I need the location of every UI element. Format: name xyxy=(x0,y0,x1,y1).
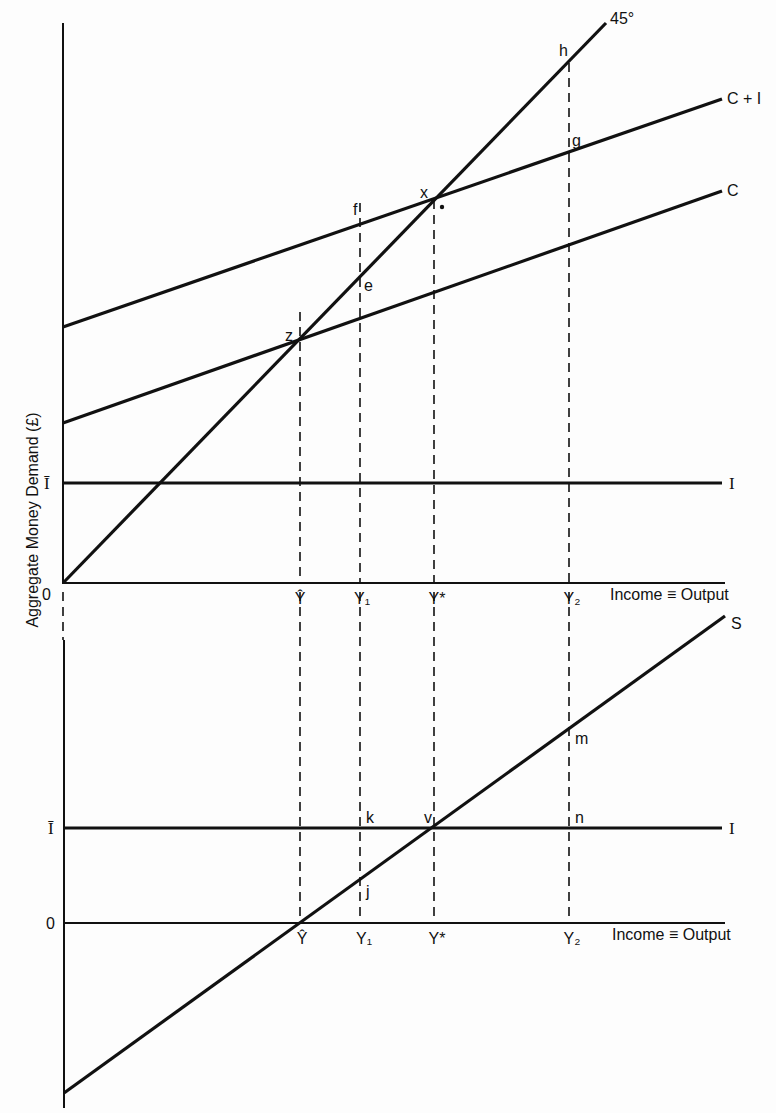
bottom-i-label: I xyxy=(729,819,735,838)
top-tick-y-star: Y* xyxy=(429,590,446,607)
point-k: k xyxy=(366,809,375,826)
forty-five-label: 45° xyxy=(610,10,634,27)
point-m: m xyxy=(575,730,588,747)
point-z: z xyxy=(285,327,293,344)
c-plus-i-label: C + I xyxy=(727,90,761,107)
bottom-tick-y-hat: Ŷ xyxy=(297,929,308,947)
point-h: h xyxy=(559,42,568,59)
top-tick-y1: Y₁ xyxy=(354,590,370,607)
top-tick-y2: Y₂ xyxy=(564,590,581,607)
top-i-bar-label: Ī xyxy=(44,474,50,493)
y-axis-label: Aggregate Money Demand (£) xyxy=(24,412,41,627)
c-line xyxy=(63,191,722,423)
point-e: e xyxy=(364,277,373,294)
point-g: g xyxy=(572,132,581,149)
top-panel: 45° C + I C I Ī 0 h g x f e z Ŷ Y₁ Y* Y₂… xyxy=(42,10,761,607)
bottom-x-axis-label: Income ≡ Output xyxy=(612,926,731,943)
point-n: n xyxy=(575,809,584,826)
between-panel-guides xyxy=(63,592,569,923)
bottom-tick-y-star: Y* xyxy=(429,930,446,947)
top-dashed-guides xyxy=(300,63,569,583)
bottom-origin-label: 0 xyxy=(46,915,55,932)
bottom-i-bar-label: Ī xyxy=(48,819,54,838)
point-v: v xyxy=(424,809,432,826)
s-line xyxy=(64,616,725,1093)
diagram-canvas: Aggregate Money Demand (£) 45° C + I C I… xyxy=(0,0,776,1113)
point-j: j xyxy=(365,883,370,900)
point-f: f xyxy=(353,201,358,218)
s-label: S xyxy=(731,615,742,632)
bottom-tick-y2: Y₂ xyxy=(564,930,581,947)
top-origin-label: 0 xyxy=(42,586,51,603)
point-x: x xyxy=(420,184,428,201)
top-i-label: I xyxy=(729,474,735,493)
bottom-tick-y1: Y₁ xyxy=(356,930,372,947)
bottom-panel: S I Ī 0 m n v k j Ŷ Y₁ Y* Y₂ Income ≡ Ou… xyxy=(46,615,742,1108)
c-plus-i-line xyxy=(63,99,722,327)
top-x-axis-label: Income ≡ Output xyxy=(610,586,729,603)
forty-five-line xyxy=(64,23,606,582)
c-label: C xyxy=(727,182,739,199)
